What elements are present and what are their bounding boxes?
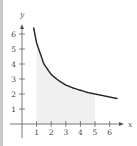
x-tick-label: 2 — [49, 128, 54, 137]
x-tick-label: 4 — [78, 128, 83, 137]
y-axis-label: y — [19, 10, 25, 19]
y-tick-label: 5 — [11, 45, 16, 54]
x-tick-label: 1 — [34, 128, 39, 137]
y-tick-label: 1 — [11, 105, 16, 114]
shaded-region — [37, 43, 95, 124]
y-tick-label: 6 — [11, 30, 16, 39]
y-tick-label: 4 — [11, 60, 16, 69]
y-tick-label: 2 — [11, 90, 16, 99]
y-axis-arrow-icon — [20, 24, 24, 29]
x-tick-label: 3 — [63, 128, 68, 137]
x-tick-label: 6 — [107, 128, 112, 137]
chart: 123456123456xy — [0, 0, 137, 146]
x-tick-label: 5 — [93, 128, 98, 137]
x-axis-label: x — [128, 120, 133, 129]
x-axis-arrow-icon — [119, 122, 124, 126]
y-tick-label: 3 — [11, 75, 16, 84]
shaded-area — [37, 43, 95, 124]
